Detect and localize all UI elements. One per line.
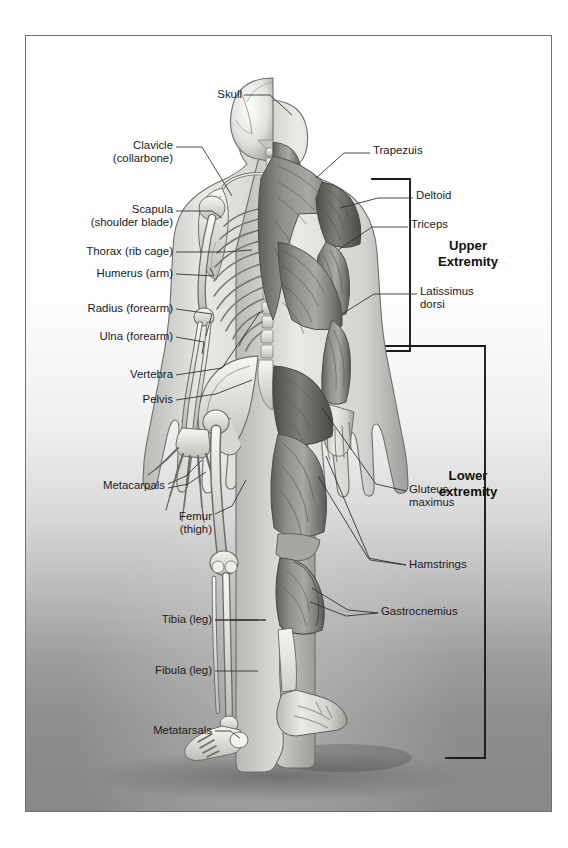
label-radius[interactable]: Radius (forearm) [88,302,173,315]
label-ulna[interactable]: Ulna (forearm) [100,330,173,343]
label-skull[interactable]: Skull [217,88,242,101]
label-metatarsals[interactable]: Metatarsals [153,724,212,737]
label-latissimus-dorsi[interactable]: Latissimus dorsi [420,285,474,312]
label-pelvis[interactable]: Pelvis [143,393,173,406]
label-layer: Skull Clavicle (collarbone) Scapula (sho… [26,36,552,812]
label-deltoid[interactable]: Deltoid [416,189,451,202]
label-hamstrings[interactable]: Hamstrings [409,558,467,571]
label-vertebra[interactable]: Vertebra [130,368,173,381]
label-scapula[interactable]: Scapula (shoulder blade) [91,203,173,230]
label-triceps[interactable]: Triceps [411,218,448,231]
label-fibula[interactable]: Fibula (leg) [155,664,212,677]
group-label-upper-extremity: Upper Extremity [420,238,516,270]
label-gastrocnemius[interactable]: Gastrocnemius [381,605,458,618]
label-tibia[interactable]: Tibia (leg) [162,613,212,626]
screenshot-canvas: Skull Clavicle (collarbone) Scapula (sho… [0,0,568,848]
label-clavicle[interactable]: Clavicle (collarbone) [113,139,173,166]
label-trapezuis[interactable]: Trapezuis [373,144,423,157]
label-thorax[interactable]: Thorax (rib cage) [86,245,173,258]
label-metacarpals[interactable]: Metacarpals [103,479,165,492]
label-humerus[interactable]: Humerus (arm) [96,267,173,280]
label-femur[interactable]: Femur (thigh) [179,510,212,537]
group-label-lower-extremity: Lower extremity [420,468,516,500]
anatomy-plate: Skull Clavicle (collarbone) Scapula (sho… [25,35,552,812]
